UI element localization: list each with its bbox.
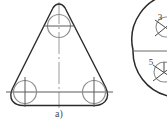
label-5: 5 [149, 57, 154, 67]
right-view-group: 3 5 [132, 0, 167, 96]
figure-caption: a) [0, 108, 118, 120]
technical-drawing-figure: 3 5 a) [0, 0, 167, 127]
flange-detail-lower-group [153, 62, 167, 82]
label-3: 3 [158, 12, 163, 22]
left-view-group [6, 2, 113, 108]
